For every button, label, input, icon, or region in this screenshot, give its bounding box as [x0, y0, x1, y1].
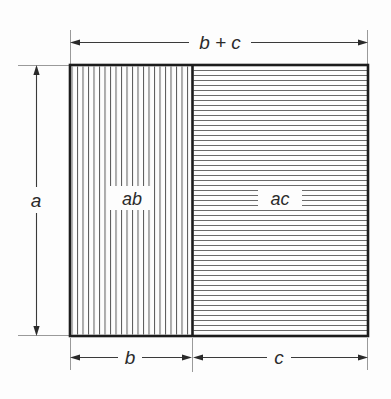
dimension-bottom-left-label: b	[125, 347, 136, 368]
area-label-ac-group: ac	[258, 186, 302, 210]
arrow-head-b-left	[70, 354, 80, 360]
area-label-ac: ac	[270, 189, 289, 209]
dimension-bottom-left: b	[70, 344, 192, 369]
area-label-ab: ab	[122, 189, 142, 209]
arrow-head-top-left-dim	[33, 65, 39, 75]
dimension-top-label: b + c	[199, 32, 241, 53]
arrow-head-b-right	[182, 354, 192, 360]
dimension-bottom-right: c	[193, 344, 368, 369]
area-label-ab-group: ab	[110, 186, 154, 210]
arrow-head-left-top	[70, 39, 80, 45]
dimension-left-label: a	[31, 190, 42, 211]
distributive-law-diagram: ab ac b + c a b	[0, 0, 391, 399]
dimension-left: a	[25, 65, 49, 336]
dimension-bottom-right-label: c	[274, 347, 284, 368]
arrow-head-c-left	[193, 354, 203, 360]
arrow-head-c-right	[358, 354, 368, 360]
dimension-top: b + c	[70, 29, 368, 54]
arrow-head-right-top	[358, 39, 368, 45]
arrow-head-bottom-left-dim	[33, 326, 39, 336]
figure-container: ab ac b + c a b	[0, 0, 391, 399]
